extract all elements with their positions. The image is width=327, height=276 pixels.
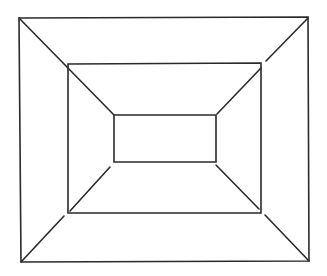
diagonal-bottom-left-outer — [21, 216, 64, 262]
diagonal-bottom-right-outer — [265, 215, 309, 261]
nested-rectangles-diagram — [0, 0, 327, 276]
middle-rectangle — [68, 63, 261, 213]
diagonal-bottom-right-inner — [216, 165, 259, 209]
outer-rectangle — [19, 17, 309, 262]
diagonal-bottom-left-inner — [70, 167, 110, 211]
inner-rectangle — [114, 115, 216, 162]
diagonal-top-right-inner — [217, 68, 261, 114]
diagonal-top-left — [19, 18, 114, 115]
diagonal-top-right-outer — [266, 18, 308, 61]
